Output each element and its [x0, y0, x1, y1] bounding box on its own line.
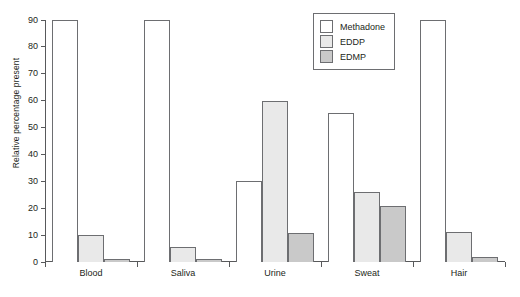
x-tick-mark	[321, 262, 322, 267]
y-tick-label: 70	[28, 67, 38, 79]
bar-urine-methadone	[236, 181, 262, 262]
bar-sweat-edmp	[380, 206, 406, 262]
bar-hair-edmp	[472, 257, 498, 262]
x-axis-label-blood: Blood	[45, 268, 137, 278]
bar-group: Urine	[229, 20, 321, 262]
bar-chart: Relative percentage present 010203040506…	[0, 0, 520, 297]
bar-saliva-edmp	[196, 259, 222, 262]
legend-label-methadone: Methadone	[340, 22, 385, 32]
y-tick-label: 50	[28, 121, 38, 133]
bar-group: Saliva	[137, 20, 229, 262]
y-axis-title: Relative percentage present	[11, 13, 21, 213]
y-tick-label: 80	[28, 40, 38, 52]
legend-item-eddp: EDDP	[320, 34, 385, 49]
legend: MethadoneEDDPEDMP	[313, 13, 395, 70]
bar-hair-eddp	[446, 232, 472, 262]
bar-sweat-methadone	[328, 113, 354, 262]
bar-saliva-methadone	[144, 20, 170, 262]
y-tick-label: 0	[33, 256, 38, 268]
y-tick-label: 40	[28, 148, 38, 160]
x-tick-mark	[413, 262, 414, 267]
bar-group: Blood	[45, 20, 137, 262]
legend-swatch-eddp	[320, 35, 333, 48]
x-axis-label-saliva: Saliva	[137, 268, 229, 278]
y-tick-label: 20	[28, 202, 38, 214]
bar-group: Hair	[413, 20, 505, 262]
legend-swatch-edmp	[320, 50, 333, 63]
y-tick-label: 10	[28, 229, 38, 241]
legend-label-eddp: EDDP	[340, 37, 365, 47]
y-tick-label: 60	[28, 94, 38, 106]
legend-item-methadone: Methadone	[320, 19, 385, 34]
y-tick-label: 90	[28, 14, 38, 26]
x-axis-label-urine: Urine	[229, 268, 321, 278]
bar-groups: BloodSalivaUrineSweatHair	[45, 20, 505, 262]
legend-label-edmp: EDMP	[340, 52, 366, 62]
bar-urine-edmp	[288, 233, 314, 262]
bar-urine-eddp	[262, 101, 288, 262]
x-axis-label-sweat: Sweat	[321, 268, 413, 278]
bar-blood-edmp	[104, 259, 130, 262]
x-tick-mark	[45, 262, 46, 267]
x-tick-mark	[505, 262, 506, 267]
legend-swatch-methadone	[320, 20, 333, 33]
bar-saliva-eddp	[170, 247, 196, 262]
y-tick-label: 30	[28, 175, 38, 187]
bar-sweat-eddp	[354, 192, 380, 262]
legend-item-edmp: EDMP	[320, 49, 385, 64]
bar-hair-methadone	[420, 20, 446, 262]
bar-blood-methadone	[52, 20, 78, 262]
plot-area: 0102030405060708090 BloodSalivaUrineSwea…	[45, 20, 505, 262]
x-axis-label-hair: Hair	[413, 268, 505, 278]
x-tick-mark	[229, 262, 230, 267]
x-tick-mark	[137, 262, 138, 267]
bar-blood-eddp	[78, 235, 104, 262]
